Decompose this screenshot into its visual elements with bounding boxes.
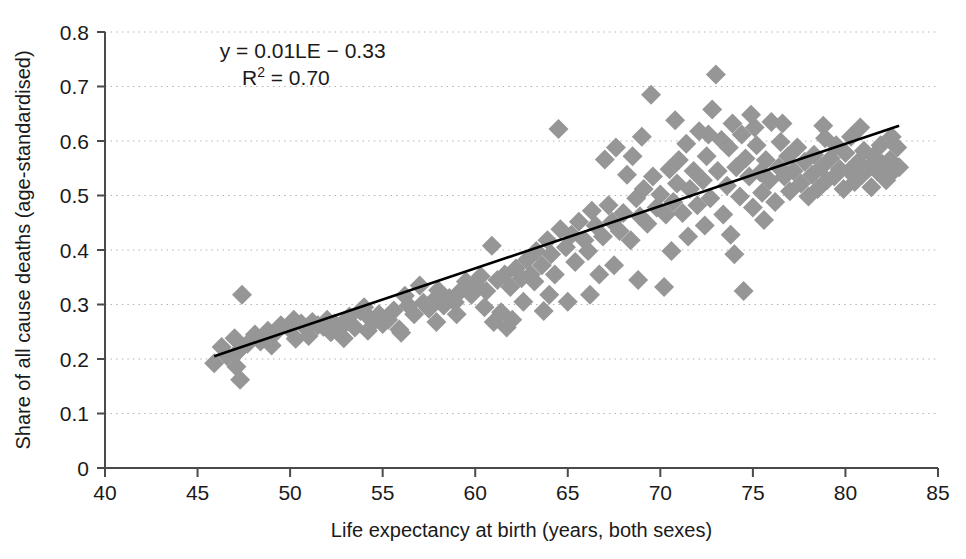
x-tick-label: 60 xyxy=(464,481,487,504)
data-point xyxy=(697,146,717,166)
x-tick-label: 80 xyxy=(834,481,857,504)
y-tick-label: 0.7 xyxy=(60,75,89,98)
data-point xyxy=(628,270,648,290)
data-point xyxy=(232,285,252,305)
data-point xyxy=(724,244,744,264)
x-tick-label: 65 xyxy=(556,481,579,504)
x-tick-label: 50 xyxy=(278,481,301,504)
trendline xyxy=(214,126,899,357)
r-squared-label: R2 = 0.70 xyxy=(242,64,330,89)
data-point xyxy=(654,277,674,297)
data-point xyxy=(702,99,722,119)
x-tick-label: 75 xyxy=(741,481,764,504)
y-tick-label: 0.2 xyxy=(60,348,89,371)
regression-equation-label: y = 0.01LE − 0.33 xyxy=(220,39,386,62)
annotations-group: y = 0.01LE − 0.33R2 = 0.70 xyxy=(220,39,386,89)
data-point xyxy=(706,65,726,85)
chart-canvas: 40455055606570758085 00.10.20.30.40.50.6… xyxy=(0,0,966,559)
x-tick-marks xyxy=(105,468,938,477)
data-point xyxy=(539,285,559,305)
data-point xyxy=(580,285,600,305)
y-axis-title: Share of all cause deaths (age-standardi… xyxy=(12,50,34,449)
y-tick-labels: 00.10.20.30.40.50.60.70.8 xyxy=(60,21,90,480)
y-tick-label: 0.6 xyxy=(60,130,89,153)
y-tick-label: 0 xyxy=(77,457,89,480)
data-point xyxy=(589,265,609,285)
data-point xyxy=(604,255,624,275)
y-tick-marks xyxy=(97,32,105,468)
scatter-chart-figure: 40455055606570758085 00.10.20.30.40.50.6… xyxy=(0,0,966,559)
x-tick-label: 40 xyxy=(93,481,116,504)
data-point xyxy=(641,85,661,105)
data-point xyxy=(734,281,754,301)
data-point xyxy=(813,116,833,136)
axes-group xyxy=(105,32,938,468)
data-point xyxy=(713,205,733,225)
x-tick-label: 45 xyxy=(186,481,209,504)
x-tick-label: 55 xyxy=(371,481,394,504)
y-tick-label: 0.5 xyxy=(60,184,89,207)
data-point xyxy=(549,119,569,139)
data-point xyxy=(721,225,741,245)
data-point xyxy=(695,215,715,235)
data-point xyxy=(617,165,637,185)
y-tick-label: 0.3 xyxy=(60,293,89,316)
x-tick-labels: 40455055606570758085 xyxy=(93,481,949,504)
data-point xyxy=(665,110,685,130)
data-point xyxy=(482,236,502,256)
data-point xyxy=(623,146,643,166)
y-tick-label: 0.4 xyxy=(60,239,90,262)
y-tick-label: 0.1 xyxy=(60,402,89,425)
data-point xyxy=(513,292,533,312)
x-tick-label: 70 xyxy=(649,481,672,504)
data-point xyxy=(661,241,681,261)
x-axis-title: Life expectancy at birth (years, both se… xyxy=(331,519,712,541)
data-point xyxy=(632,127,652,147)
y-tick-label: 0.8 xyxy=(60,21,89,44)
data-points-group xyxy=(204,65,909,390)
data-point xyxy=(558,292,578,312)
data-point xyxy=(678,226,698,246)
x-tick-label: 85 xyxy=(926,481,949,504)
trendline-group xyxy=(214,126,899,357)
